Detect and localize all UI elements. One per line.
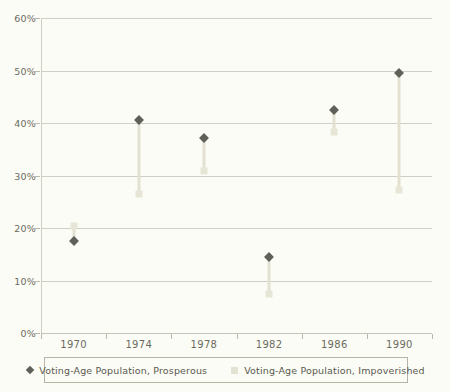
- gridline-30%: [41, 176, 432, 177]
- x-axis-tick-label: 1974: [125, 339, 152, 350]
- x-tick-mark: [106, 334, 107, 339]
- y-axis-tick-label: 10%: [14, 275, 36, 286]
- legend-entry-impoverished[interactable]: Voting-Age Population, Impoverished: [231, 365, 425, 376]
- x-axis-tick-label: 1982: [256, 339, 283, 350]
- y-axis-tick-label: 60%: [14, 13, 36, 24]
- data-point-impoverished[interactable]: [70, 222, 77, 229]
- y-tick-mark: [35, 228, 40, 229]
- x-axis-tick-label: 1986: [321, 339, 348, 350]
- y-axis-tick-label: 50%: [14, 65, 36, 76]
- x-tick-mark: [41, 334, 42, 339]
- x-tick-mark: [237, 334, 238, 339]
- x-tick-mark: [302, 334, 303, 339]
- y-tick-mark: [35, 18, 40, 19]
- y-tick-mark: [35, 71, 40, 72]
- y-axis-tick-label: 30%: [14, 170, 36, 181]
- data-point-prosperous[interactable]: [329, 105, 339, 115]
- x-tick-mark: [171, 334, 172, 339]
- x-axis-tick-label: 1978: [191, 339, 218, 350]
- data-point-impoverished[interactable]: [266, 290, 273, 297]
- gridline-20%: [41, 228, 432, 229]
- data-point-impoverished[interactable]: [200, 168, 207, 175]
- data-point-impoverished[interactable]: [331, 128, 338, 135]
- data-point-prosperous[interactable]: [199, 133, 209, 143]
- data-point-prosperous[interactable]: [69, 236, 79, 246]
- legend-label-prosperous: Voting-Age Population, Prosperous: [39, 365, 207, 376]
- series-connector: [398, 73, 401, 191]
- y-tick-mark: [35, 281, 40, 282]
- chart-screenshot: 0%10%20%30%40%50%60% Voting-Age Populati…: [0, 0, 450, 392]
- legend-label-impoverished: Voting-Age Population, Impoverished: [244, 365, 425, 376]
- gridline-10%: [41, 281, 432, 282]
- x-axis-tick-label: 1990: [386, 339, 413, 350]
- y-axis-tick-label: 40%: [14, 118, 36, 129]
- series-connector: [268, 257, 271, 294]
- chart-legend: Voting-Age Population, Prosperous Voting…: [44, 357, 408, 383]
- plot-area: [41, 18, 432, 333]
- y-tick-mark: [35, 123, 40, 124]
- data-point-prosperous[interactable]: [394, 68, 404, 78]
- y-axis-tick-label: 0%: [21, 328, 36, 339]
- y-tick-mark: [35, 333, 40, 334]
- diamond-marker-icon: [26, 366, 34, 374]
- y-axis-label-group: 0%10%20%30%40%50%60%: [0, 0, 36, 392]
- gridline-40%: [41, 123, 432, 124]
- gridline-50%: [41, 71, 432, 72]
- data-point-impoverished[interactable]: [396, 187, 403, 194]
- legend-entry-prosperous[interactable]: Voting-Age Population, Prosperous: [27, 365, 207, 376]
- y-axis-tick-label: 20%: [14, 223, 36, 234]
- y-tick-mark: [35, 176, 40, 177]
- series-connector: [137, 120, 140, 194]
- x-axis-tick-label: 1970: [60, 339, 87, 350]
- x-tick-mark: [432, 334, 433, 339]
- data-point-impoverished[interactable]: [135, 190, 142, 197]
- square-marker-icon: [231, 367, 238, 374]
- data-point-prosperous[interactable]: [264, 252, 274, 262]
- gridline-60%: [41, 18, 432, 19]
- x-tick-mark: [367, 334, 368, 339]
